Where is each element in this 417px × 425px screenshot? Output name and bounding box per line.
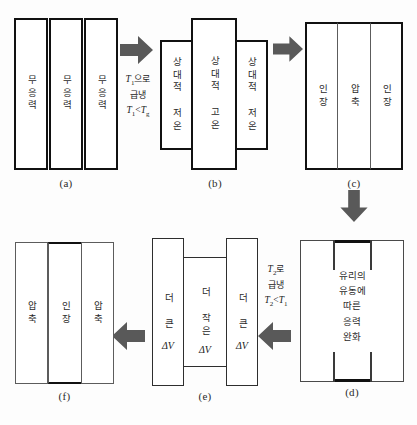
arrow-down-icon (340, 190, 368, 222)
arrow-right-icon (120, 36, 153, 64)
panel-e-bar-1-label: 더 큰 (161, 293, 175, 332)
panel-c-bar-3-label: 인장 (379, 84, 393, 109)
panel-d-top-edge (333, 240, 371, 243)
arrow-a-to-b-label-line1: T1으로 (112, 72, 164, 89)
arrow-e-to-f (112, 322, 145, 350)
panel-f-bar-2-label: 인장 (58, 301, 72, 326)
panel-d-divider-top-left (333, 240, 335, 270)
panel-a-bar-2: 무응력 (49, 18, 83, 170)
panel-c-bar-2-label: 압축 (347, 84, 361, 109)
panel-c-bar-1: 인장 (305, 22, 338, 170)
panel-e: 더 큰 ΔV 더 작은 ΔV 더 큰 ΔV (e) (152, 238, 258, 386)
panel-e-caption: (e) (152, 390, 258, 402)
panel-b-bar-1-label: 상대적 저온 (170, 57, 184, 133)
arrow-b-to-c (273, 36, 303, 62)
panel-a: 무응력 무응력 무응력 (a) (14, 18, 118, 170)
panel-c-caption: (c) (305, 177, 403, 189)
panel-e-bar-1: 더 큰 (152, 238, 184, 386)
panel-b: 상대적 저온 상대적 고온 상대적 저온 (b) (160, 18, 270, 170)
arrow-left-icon (112, 322, 145, 350)
arrow-d-to-e (258, 322, 291, 350)
panel-b-bar-3: 상대적 저온 (235, 40, 268, 150)
arrow-left-icon (258, 322, 291, 350)
panel-f-bar-2: 인장 (48, 242, 82, 384)
panel-e-bar-1-dv: ΔV (152, 340, 184, 351)
arrow-a-to-b-label-line2: 급냉 (112, 89, 164, 103)
panel-c-bar-2: 압축 (337, 22, 371, 170)
panel-d-text: 유리의 유동에 따른 응력 완화 (300, 268, 404, 344)
tempered-glass-process-diagram: 무응력 무응력 무응력 (a) T1으로 급냉 T1<Tg 상대적 저온 상대적… (0, 0, 417, 425)
arrow-a-to-b-label-line3: T1<Tg (112, 103, 164, 120)
panel-b-bar-3-label: 상대적 저온 (245, 57, 259, 133)
panel-c-bar-3: 인장 (370, 22, 403, 170)
panel-e-bar-3: 더 큰 (226, 238, 258, 386)
panel-b-bar-2-label: 상대적 고온 (207, 56, 221, 132)
panel-b-caption: (b) (160, 177, 270, 189)
panel-b-bar-1: 상대적 저온 (160, 40, 193, 150)
panel-d-caption: (d) (300, 386, 404, 398)
panel-f: 압축 인장 압축 (f) (15, 242, 114, 384)
panel-d-divider-bottom-left (333, 352, 335, 382)
panel-f-bar-1: 압축 (15, 242, 48, 384)
arrow-a-to-b (120, 36, 153, 64)
panel-f-bar-1-label: 압축 (25, 301, 39, 326)
arrow-c-to-d (340, 190, 368, 222)
panel-b-bar-2: 상대적 고온 (191, 18, 237, 170)
panel-d-divider-top-right (370, 240, 372, 270)
arrow-a-to-b-label: T1으로 급냉 T1<Tg (112, 72, 164, 119)
panel-f-caption: (f) (15, 390, 114, 402)
panel-d: 유리의 유동에 따른 응력 완화 (d) (300, 240, 404, 382)
panel-e-bar-3-dv: ΔV (226, 340, 258, 351)
panel-f-bar-3: 압축 (81, 242, 114, 384)
panel-a-caption: (a) (14, 177, 118, 189)
panel-c-bar-1-label: 인장 (315, 84, 329, 109)
panel-e-bar-3-label: 더 큰 (235, 293, 249, 332)
arrow-right-icon (273, 36, 303, 62)
panel-a-bar-1-label: 무응력 (24, 75, 38, 113)
panel-e-bar-2-dv: ΔV (183, 344, 227, 355)
panel-c: 인장 압축 인장 (c) (305, 22, 403, 170)
panel-d-divider-bottom-right (370, 352, 372, 382)
panel-e-bar-2-label: 더 작은 (198, 287, 212, 338)
panel-a-bar-3-label: 무응력 (94, 75, 108, 113)
panel-a-bar-2-label: 무응력 (59, 75, 73, 113)
panel-a-bar-1: 무응력 (14, 18, 48, 170)
panel-d-bottom-edge (333, 379, 371, 382)
panel-f-bar-3-label: 압축 (91, 301, 105, 326)
